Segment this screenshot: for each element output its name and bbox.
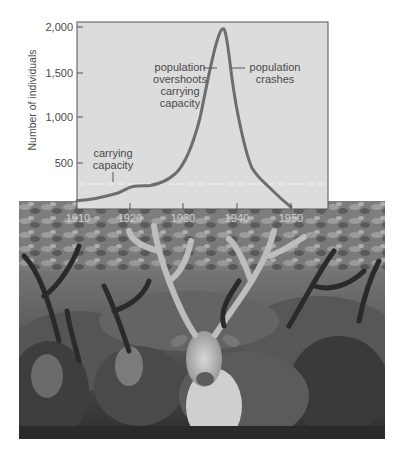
reindeer-photo (19, 201, 385, 439)
reindeer-photo-illustration (19, 201, 385, 439)
svg-text:population: population (250, 61, 301, 73)
svg-text:carrying: carrying (160, 85, 199, 97)
x-tick-label-1930: 1930 (171, 212, 195, 224)
y-tick-label-1000: 1,000 (45, 111, 73, 123)
x-tick-label-1940: 1940 (225, 212, 249, 224)
y-axis-label: Number of individuals (26, 50, 38, 151)
y-tick-label-500: 500 (55, 157, 73, 169)
x-tick-label-1920: 1920 (118, 212, 142, 224)
population-chart: 2,000 1,500 1,000 500 Number of individu… (0, 0, 404, 230)
chart-svg: 2,000 1,500 1,000 500 Number of individu… (0, 0, 404, 230)
plot-area (77, 22, 328, 209)
svg-text:capacity: capacity (93, 159, 134, 171)
svg-text:population: population (155, 61, 206, 73)
x-tick-label-1950: 1950 (279, 212, 303, 224)
svg-text:capacity: capacity (160, 97, 201, 109)
x-tick-label-1910: 1910 (66, 212, 90, 224)
svg-text:carrying: carrying (93, 147, 132, 159)
y-tick-label-2000: 2,000 (45, 21, 73, 33)
svg-text:overshoots: overshoots (153, 73, 207, 85)
y-tick-label-1500: 1,500 (45, 67, 73, 79)
x-tick-labels: 1910 1920 1930 1940 1950 (66, 212, 303, 224)
svg-text:crashes: crashes (256, 73, 295, 85)
